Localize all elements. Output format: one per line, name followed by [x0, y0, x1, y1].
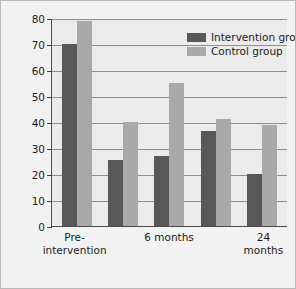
legend-item: Intervention group — [187, 31, 296, 43]
x-tick-label: Pre- intervention — [43, 231, 107, 256]
x-tick-label: 24 months — [244, 231, 284, 256]
chart-legend: Intervention groupControl group — [187, 31, 296, 57]
legend-label: Intervention group — [211, 31, 296, 43]
legend-label: Control group — [211, 45, 283, 57]
bar-group — [154, 19, 184, 226]
bar — [154, 156, 169, 226]
bar-group — [108, 19, 138, 226]
bar — [123, 122, 138, 226]
bar — [216, 119, 231, 226]
bar — [169, 83, 184, 226]
y-tick-label: 70 — [21, 40, 45, 51]
y-axis-tick-labels: 01020304050607080 — [21, 19, 45, 227]
x-tick-label: 6 months — [144, 231, 194, 244]
y-tick-label: 50 — [21, 92, 45, 103]
y-tick-label: 20 — [21, 170, 45, 181]
y-tick-label: 30 — [21, 144, 45, 155]
chart-figure: Percentage with anxiety disorder 0102030… — [0, 0, 296, 289]
legend-item: Control group — [187, 45, 296, 57]
y-tick-mark — [47, 227, 52, 228]
x-axis-tick-labels: Pre- intervention6 months24 months — [51, 231, 287, 265]
bar-group — [62, 19, 92, 226]
y-tick-label: 40 — [21, 118, 45, 129]
y-tick-label: 10 — [21, 196, 45, 207]
y-tick-label: 80 — [21, 14, 45, 25]
legend-swatch — [187, 33, 206, 42]
bar — [247, 174, 262, 226]
y-tick-label: 0 — [21, 222, 45, 233]
y-tick-label: 60 — [21, 66, 45, 77]
legend-swatch — [187, 47, 206, 56]
bar — [262, 125, 277, 226]
bar — [108, 160, 123, 226]
bar — [77, 21, 92, 226]
bar — [62, 44, 77, 226]
bar — [201, 131, 216, 226]
